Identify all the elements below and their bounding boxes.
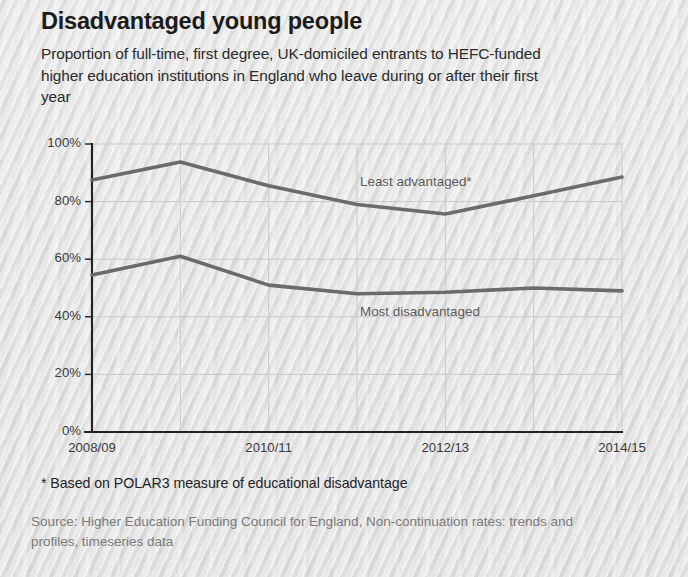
y-axis-tick-label: 20% <box>55 365 81 380</box>
series-label-2: Most disadvantaged <box>360 304 480 319</box>
y-axis-tick-label: 0% <box>62 423 81 438</box>
y-axis-tick-label: 100% <box>47 135 81 150</box>
series-label-1: Least advantaged* <box>360 174 472 189</box>
y-axis-tick-label: 80% <box>55 193 81 208</box>
chart-source: Source: Higher Education Funding Council… <box>31 512 591 552</box>
x-axis-tick-label: 2014/15 <box>572 440 672 455</box>
x-axis-tick-label: 2008/09 <box>42 440 142 455</box>
y-axis-tick-label: 60% <box>55 250 81 265</box>
x-axis-tick-label: 2010/11 <box>219 440 319 455</box>
chart-page: Disadvantaged young people Proportion of… <box>0 0 688 577</box>
y-axis-tick-label: 40% <box>55 308 81 323</box>
x-axis-tick-label: 2012/13 <box>395 440 495 455</box>
chart-footnote: * Based on POLAR3 measure of educational… <box>41 475 407 491</box>
